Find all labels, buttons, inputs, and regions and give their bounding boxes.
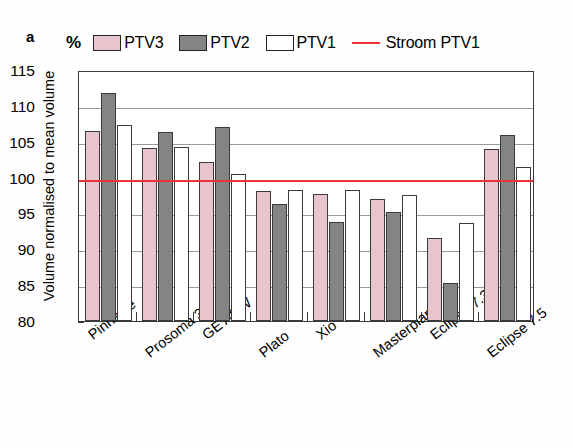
- bar-ptv1-ge-adw[interactable]: [231, 174, 247, 321]
- bar-ptv3-ge-adw[interactable]: [199, 162, 215, 321]
- figure-panel-a: a % PTV3 PTV2 PTV1 Stroom PTV1 Volume no…: [0, 0, 573, 448]
- x-axis-label-plato: Plato: [256, 328, 292, 361]
- bar-ptv2-xio[interactable]: [329, 222, 345, 321]
- bar-ptv3-xio[interactable]: [313, 194, 329, 321]
- bar-ptv3-eclipse-7-3[interactable]: [427, 238, 443, 321]
- bar-ptv1-prosoma-3-0[interactable]: [174, 147, 190, 321]
- bar-ptv1-masterplan[interactable]: [402, 195, 418, 321]
- bar-ptv2-prosoma-3-0[interactable]: [158, 132, 174, 321]
- bar-ptv1-xio[interactable]: [345, 190, 361, 321]
- bar-ptv2-masterplan[interactable]: [386, 212, 402, 321]
- bar-ptv2-pinnacle[interactable]: [101, 93, 117, 321]
- bar-ptv3-eclipse-7-5[interactable]: [484, 149, 500, 321]
- bar-ptv2-eclipse-7-3[interactable]: [443, 283, 459, 321]
- bar-ptv3-pinnacle[interactable]: [85, 131, 101, 321]
- bar-ptv3-masterplan[interactable]: [370, 199, 386, 321]
- bar-ptv1-eclipse-7-3[interactable]: [459, 223, 475, 321]
- bar-ptv2-ge-adw[interactable]: [215, 127, 231, 321]
- bar-ptv2-plato[interactable]: [272, 204, 288, 321]
- bar-ptv2-eclipse-7-5[interactable]: [500, 135, 516, 321]
- bar-ptv1-pinnacle[interactable]: [117, 125, 133, 321]
- bar-ptv3-plato[interactable]: [256, 191, 272, 321]
- reference-line-stroom-ptv1: [79, 180, 533, 182]
- bar-ptv1-plato[interactable]: [288, 190, 304, 321]
- bar-ptv3-prosoma-3-0[interactable]: [142, 148, 158, 321]
- bar-ptv1-eclipse-7-5[interactable]: [516, 167, 532, 321]
